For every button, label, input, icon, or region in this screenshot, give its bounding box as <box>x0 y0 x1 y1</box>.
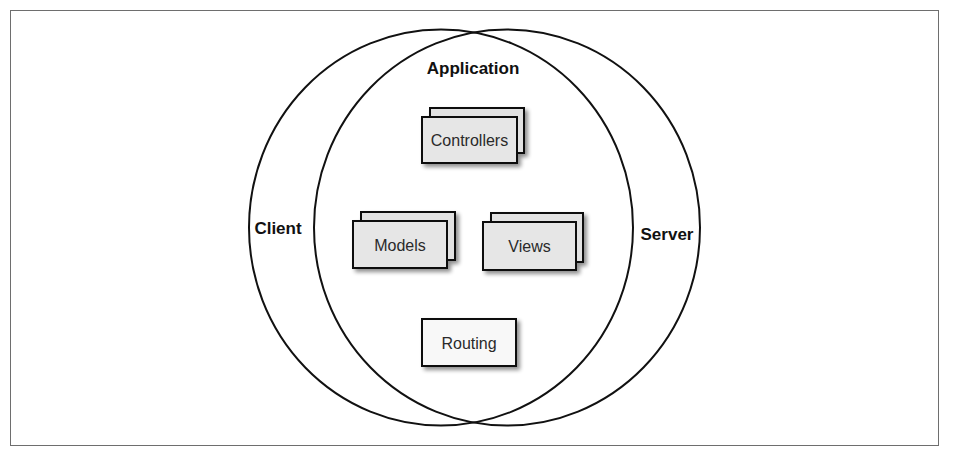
controllers-label: Controllers <box>431 132 508 149</box>
views-label: Views <box>508 238 550 255</box>
client-label: Client <box>254 219 302 238</box>
models-label: Models <box>374 237 426 254</box>
application-label: Application <box>427 59 520 78</box>
server-label: Server <box>641 225 694 244</box>
routing-label: Routing <box>441 335 496 352</box>
client-server-venn-diagram: Client Server Application Controllers Mo… <box>0 0 955 454</box>
